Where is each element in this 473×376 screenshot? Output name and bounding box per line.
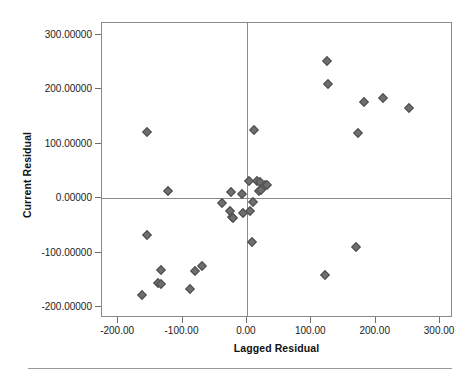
x-axis-tick: [310, 317, 311, 323]
data-point: [156, 265, 166, 275]
y-axis-tick-label: -100.00000: [4, 246, 92, 257]
x-axis-title: Lagged Residual: [101, 342, 452, 354]
y-axis-tick-label: -200.00000: [4, 301, 92, 312]
scatter-plot-figure: Current Residual -200.00000-100.000000.0…: [0, 0, 473, 376]
bottom-divider: [28, 368, 452, 369]
y-axis-tick-label: 100.00000: [4, 137, 92, 148]
data-point: [137, 290, 147, 300]
data-point: [323, 79, 333, 89]
y-axis-tick-label: 200.00000: [4, 83, 92, 94]
plot-area: [102, 23, 451, 316]
x-axis-tick: [117, 317, 118, 323]
data-point: [185, 284, 195, 294]
x-axis-tick: [375, 317, 376, 323]
data-point: [378, 93, 388, 103]
x-axis-tick: [439, 317, 440, 323]
horizontal-reference-line: [102, 198, 451, 199]
data-point: [321, 270, 331, 280]
data-point: [142, 230, 152, 240]
data-point: [226, 187, 236, 197]
plot-frame: [101, 22, 452, 317]
data-point: [247, 237, 257, 247]
data-point: [359, 98, 369, 108]
data-point: [351, 242, 361, 252]
data-point: [163, 186, 173, 196]
x-axis-tick: [182, 317, 183, 323]
x-axis-tick: [246, 317, 247, 323]
y-axis-tick-label: 300.00000: [4, 28, 92, 39]
data-point: [249, 125, 259, 135]
data-point: [142, 127, 152, 137]
x-axis-tick-label: 300.00: [399, 325, 473, 336]
vertical-reference-line: [247, 23, 248, 316]
data-point: [353, 128, 363, 138]
data-point: [228, 213, 238, 223]
data-point: [404, 103, 414, 113]
y-axis-tick-label: 0.00000: [4, 192, 92, 203]
y-axis-title: Current Residual: [21, 100, 33, 250]
data-point: [322, 56, 332, 66]
